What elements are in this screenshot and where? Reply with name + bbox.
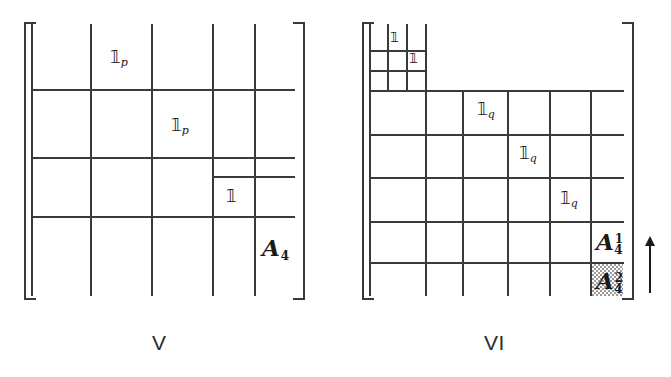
matrix-vi-label-one-nested-a: 𝟙: [390, 29, 399, 45]
matrix-vi-nested-vrule-1: [387, 24, 389, 90]
matrix-vi-panel: 𝟙 𝟙 𝟙q 𝟙q 𝟙q A14 A24 VI: [0, 0, 671, 377]
matrix-vi-hrule-1: [369, 90, 624, 92]
a-base-glyph: A: [596, 228, 614, 255]
subscript-q: q: [488, 108, 495, 121]
matrix-vi-right-bracket: [622, 22, 634, 300]
up-arrow-shaft: [649, 245, 651, 293]
blackboard-one-glyph: 𝟙: [390, 29, 399, 45]
subscript-q: q: [571, 197, 578, 210]
a-base-glyph: A: [596, 267, 614, 294]
matrix-vi-hrule-5: [369, 262, 624, 264]
matrix-vi-left-bracket: [362, 22, 374, 300]
blackboard-one-glyph: 𝟙: [477, 99, 488, 119]
matrix-vi-vrule-4: [507, 90, 509, 296]
matrix-vi-hrule-2: [369, 134, 624, 136]
matrix-vi-label-one-q-3: 𝟙q: [560, 190, 578, 209]
blackboard-one-glyph: 𝟙: [560, 188, 571, 208]
matrix-vi-nested-vrule-2: [406, 24, 408, 90]
matrix-vi-label-one-q-2: 𝟙q: [519, 145, 537, 164]
matrix-vi-caption: VI: [484, 331, 505, 355]
matrix-vi-vrule-5: [549, 90, 551, 296]
matrix-vi-nested-hrule-2: [369, 70, 427, 72]
a-subscript-4: 4: [614, 243, 622, 257]
blackboard-one-glyph: 𝟙: [409, 50, 418, 66]
matrix-vi-label-a4-2: A24: [596, 269, 622, 295]
matrix-vi-vrule-1: [369, 24, 371, 296]
matrix-vi-vrule-3: [462, 90, 464, 296]
matrix-vi-nested-hrule-1: [369, 50, 427, 52]
matrix-vi-label-a4-1: A14: [596, 230, 622, 256]
matrix-vi-vrule-2: [425, 24, 427, 296]
matrix-vi-label-one-nested-b: 𝟙: [409, 50, 418, 66]
blackboard-one-glyph: 𝟙: [519, 143, 530, 163]
matrix-vi-hrule-4: [369, 221, 624, 223]
subscript-q: q: [530, 152, 537, 165]
matrix-vi-hrule-3: [369, 177, 624, 179]
up-arrow-head-icon: [645, 236, 655, 246]
matrix-vi-label-one-q-1: 𝟙q: [477, 101, 495, 120]
figure-root: 𝟙p 𝟙p 𝟙 A4 V: [0, 0, 671, 377]
a-subscript-4: 4: [614, 282, 622, 296]
